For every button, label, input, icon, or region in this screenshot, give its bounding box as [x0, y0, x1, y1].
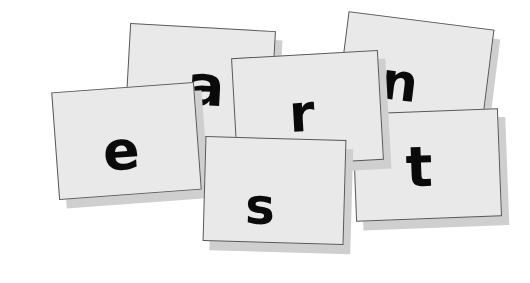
letter-glyph-n: n: [378, 54, 421, 110]
letter-glyph-r: r: [287, 87, 316, 140]
letter-card-s[interactable]: s: [203, 136, 347, 245]
letter-tiles-scene: a n e t r s: [0, 0, 530, 283]
letter-glyph-e: e: [101, 123, 141, 180]
letter-glyph-s: s: [244, 181, 275, 232]
letter-glyph-t: t: [405, 139, 434, 196]
letter-card-e[interactable]: e: [51, 82, 202, 200]
